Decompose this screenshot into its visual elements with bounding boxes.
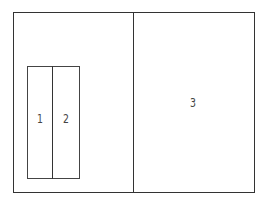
region-3-text: 3 [190, 95, 196, 110]
inner-box [27, 66, 80, 179]
region-3-label: 3 [189, 95, 196, 110]
inner-divider [52, 66, 53, 179]
region-2-label: 2 [62, 111, 69, 126]
vertical-divider [133, 12, 134, 193]
region-1-text: 1 [37, 111, 43, 126]
region-2-text: 2 [63, 111, 69, 126]
region-1-label: 1 [36, 111, 43, 126]
